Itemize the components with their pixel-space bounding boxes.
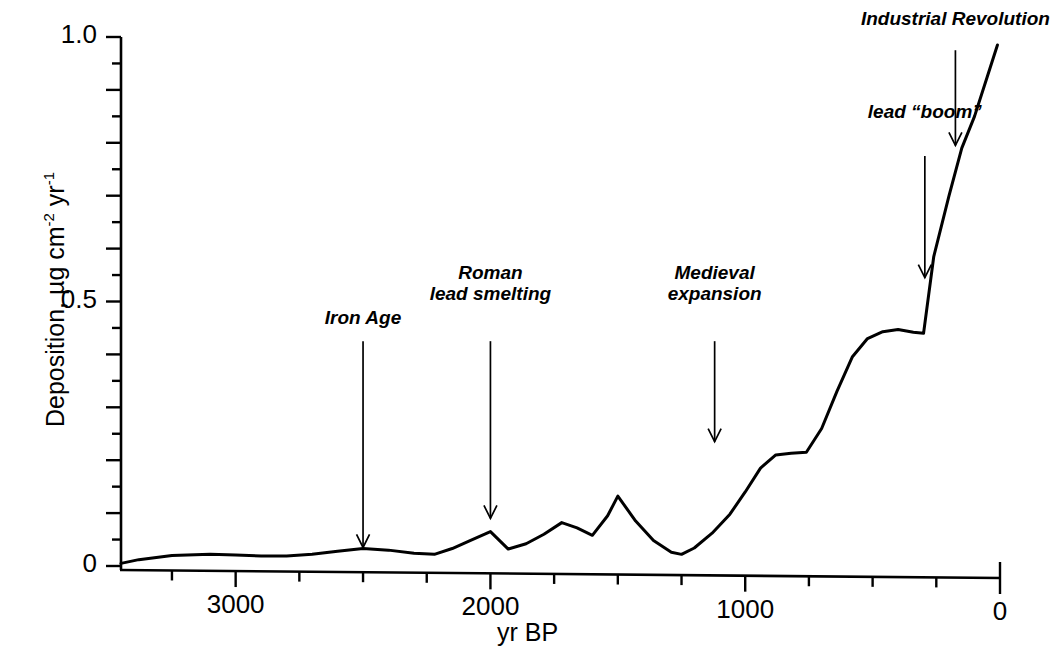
y-axis-title-exp2: -1: [40, 172, 57, 185]
plot-area: [0, 0, 1055, 663]
y-tick-label: 1.0: [0, 19, 97, 50]
annotation-label-iron-age: Iron Age: [193, 307, 533, 329]
annotation-label-lead-boom: lead “boom”: [755, 101, 1055, 123]
annotation-label-medieval-expansion: Medievalexpansion: [545, 262, 885, 306]
annotation-line: lead “boom”: [755, 101, 1055, 123]
annotation-label-industrial-revolution: Industrial Revolution: [785, 8, 1055, 30]
y-axis-ticks: [106, 37, 121, 566]
annotation-line: Industrial Revolution: [785, 8, 1055, 30]
annotation-line: Iron Age: [193, 307, 533, 329]
y-tick-label: 0.5: [0, 284, 97, 315]
x-axis-spine: [120, 570, 1001, 578]
x-tick-label: 0: [920, 596, 1055, 627]
x-tick-label: 2000: [410, 591, 570, 622]
y-axis-title-main: Deposition, µg cm: [41, 226, 69, 427]
y-tick-label: 0: [0, 548, 97, 579]
x-tick-label: 1000: [665, 594, 825, 625]
annotation-line: Medieval: [545, 262, 885, 284]
annotation-line: expansion: [545, 283, 885, 305]
lead-deposition-chart: Deposition, µg cm-2 yr-1 yr BP 1.00.5030…: [0, 0, 1055, 663]
x-tick-label: 3000: [156, 589, 316, 620]
y-axis-title-mid: yr: [41, 185, 69, 213]
y-axis-title-exp1: -2: [40, 213, 57, 226]
